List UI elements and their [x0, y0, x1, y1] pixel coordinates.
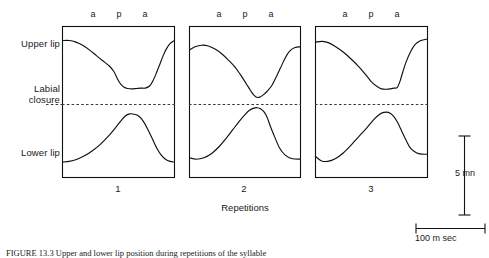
panel-2 — [189, 27, 301, 178]
trace-lower-lip — [190, 108, 301, 160]
panel-number-3: 3 — [341, 183, 401, 194]
trace-upper-lip — [63, 40, 175, 88]
vertical-scale-label: 5 mn — [455, 168, 475, 178]
panel-border — [190, 27, 301, 178]
panel-border — [316, 27, 428, 178]
figure-caption: FIGURE 13.3 Upper and lower lip position… — [6, 249, 484, 258]
trace-upper-lip — [316, 39, 428, 89]
trace-lower-lip — [316, 112, 428, 161]
horizontal-scale-bar — [416, 224, 485, 234]
trace-lower-lip — [63, 114, 175, 162]
panel-1 — [62, 27, 175, 178]
x-axis-title: Repetitions — [185, 202, 305, 213]
panel-border — [63, 27, 175, 178]
panel-number-2: 2 — [214, 183, 274, 194]
trace-upper-lip — [190, 45, 301, 97]
horizontal-scale-label: 100 m sec — [415, 233, 457, 243]
panel-3 — [315, 27, 428, 178]
panel-number-1: 1 — [88, 183, 148, 194]
